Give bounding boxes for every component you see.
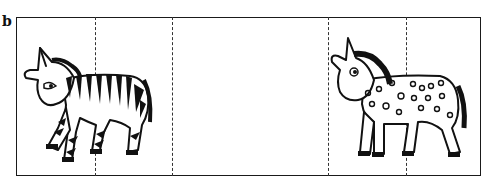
spotted-horse-illustration bbox=[0, 0, 484, 191]
